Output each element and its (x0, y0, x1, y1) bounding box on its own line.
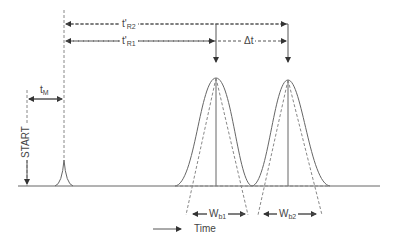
label-wb2: Wb2 (277, 209, 298, 220)
label-delta-t: Δt (242, 36, 255, 46)
peak-2 (252, 80, 330, 186)
peak-1 (175, 78, 252, 186)
label-tm: tM (40, 85, 49, 96)
chromatogram-diagram (0, 0, 396, 247)
label-time: Time (194, 224, 216, 234)
label-tr1: t'R1 (120, 36, 138, 47)
label-wb1: Wb1 (207, 209, 228, 220)
label-start: START (21, 124, 31, 160)
label-tr2: t'R2 (120, 19, 138, 30)
dead-time-peak (55, 160, 73, 186)
